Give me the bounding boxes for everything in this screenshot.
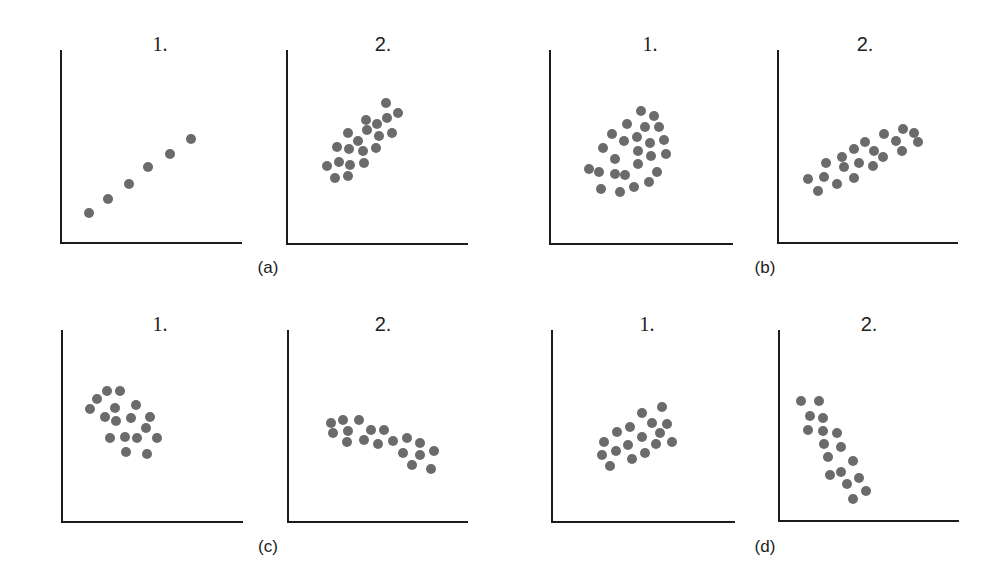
data-point — [868, 161, 878, 171]
data-point — [805, 411, 815, 421]
data-point — [854, 158, 864, 168]
data-point — [393, 108, 403, 118]
data-point — [398, 448, 408, 458]
y-axis-line — [778, 330, 780, 521]
data-point — [371, 143, 381, 153]
x-axis-line — [60, 242, 242, 244]
data-point — [629, 182, 639, 192]
data-point — [637, 432, 647, 442]
data-point — [105, 433, 115, 443]
data-point — [132, 433, 142, 443]
panel-label: 2. — [857, 33, 874, 56]
data-point — [818, 426, 828, 436]
y-axis-line — [60, 50, 62, 243]
data-point — [636, 106, 646, 116]
data-point — [848, 456, 858, 466]
data-point — [878, 152, 888, 162]
data-point — [657, 402, 667, 412]
data-point — [821, 158, 831, 168]
data-point — [854, 473, 864, 483]
data-point — [611, 446, 621, 456]
x-axis-line — [778, 520, 959, 522]
data-point — [632, 132, 642, 142]
data-point — [623, 440, 633, 450]
data-point — [640, 448, 650, 458]
data-point — [849, 173, 859, 183]
x-axis-line — [549, 243, 733, 245]
data-point — [584, 164, 594, 174]
group-caption: (a) — [258, 258, 279, 278]
data-point — [661, 149, 671, 159]
data-point — [343, 128, 353, 138]
data-point — [879, 129, 889, 139]
data-point — [100, 412, 110, 422]
data-point — [131, 400, 141, 410]
panel-label: 2. — [375, 313, 392, 336]
data-point — [825, 470, 835, 480]
data-point — [102, 386, 112, 396]
data-point — [597, 450, 607, 460]
data-point — [651, 439, 661, 449]
data-point — [819, 439, 829, 449]
data-point — [605, 461, 615, 471]
data-point — [819, 172, 829, 182]
data-point — [803, 174, 813, 184]
data-point — [610, 154, 620, 164]
data-point — [407, 460, 417, 470]
data-point — [814, 396, 824, 406]
x-axis-line — [777, 242, 958, 244]
data-point — [607, 129, 617, 139]
data-point — [326, 418, 336, 428]
data-point — [849, 144, 859, 154]
data-point — [625, 422, 635, 432]
data-point — [836, 467, 846, 477]
y-axis-line — [286, 50, 288, 244]
data-point — [334, 157, 344, 167]
panel-label: 1. — [153, 313, 168, 336]
data-point — [647, 418, 657, 428]
y-axis-line — [549, 50, 551, 244]
group-caption: (b) — [755, 258, 776, 278]
data-point — [655, 428, 665, 438]
data-point — [361, 115, 371, 125]
data-point — [358, 146, 368, 156]
x-axis-line — [287, 521, 468, 523]
data-point — [381, 98, 391, 108]
data-point — [823, 452, 833, 462]
panel-label: 2. — [861, 313, 878, 336]
data-point — [891, 136, 901, 146]
data-point — [362, 125, 372, 135]
data-point — [842, 479, 852, 489]
data-point — [126, 413, 136, 423]
data-point — [120, 432, 130, 442]
data-point — [353, 136, 363, 146]
data-point — [622, 119, 632, 129]
x-axis-line — [551, 521, 735, 523]
data-point — [343, 171, 353, 181]
data-point — [145, 412, 155, 422]
data-point — [354, 415, 364, 425]
data-point — [633, 159, 643, 169]
data-point — [848, 494, 858, 504]
group-caption: (d) — [755, 537, 776, 557]
panel-label: 1. — [640, 313, 655, 336]
data-point — [342, 437, 352, 447]
x-axis-line — [286, 243, 468, 245]
scatter-correlation-figure: 1.2.1.2.1.2.1.2.(a)(b)(c)(d) — [0, 0, 1006, 572]
data-point — [388, 436, 398, 446]
data-point — [141, 423, 151, 433]
data-point — [644, 177, 654, 187]
data-point — [374, 131, 384, 141]
group-caption: (c) — [258, 537, 278, 557]
data-point — [803, 425, 813, 435]
data-point — [818, 413, 828, 423]
data-point — [649, 111, 659, 121]
y-axis-line — [287, 330, 289, 522]
x-axis-line — [61, 521, 243, 523]
data-point — [633, 146, 643, 156]
data-point — [372, 119, 382, 129]
data-point — [373, 439, 383, 449]
data-point — [165, 149, 175, 159]
data-point — [860, 137, 870, 147]
data-point — [619, 136, 629, 146]
